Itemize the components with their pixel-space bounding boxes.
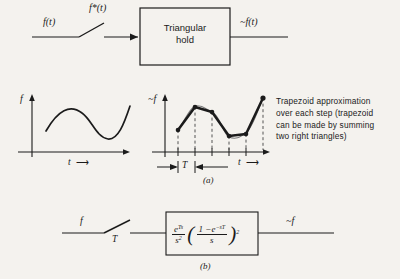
arrow-head-icon xyxy=(130,34,138,41)
top-sampled-label: f*(t) xyxy=(89,3,106,13)
plot-output-axes xyxy=(152,94,270,157)
transfer-function: eTs s2 ( 1 −e−sT s )2 xyxy=(172,224,239,245)
axis-arrow-right-icon xyxy=(263,149,270,155)
plot-output-reference-curve xyxy=(178,98,263,138)
tf-inner-fraction: 1 −e−sT s xyxy=(197,224,227,245)
tf-s-power: 2 xyxy=(179,235,182,241)
bottom-period-label: T xyxy=(112,235,117,245)
plot-output-period-label: T xyxy=(182,161,187,171)
figure-canvas: f(t) f*(t) Triangular hold ~f(t) f t ⟶ ~… xyxy=(0,0,400,279)
top-input-label: f(t) xyxy=(43,17,55,27)
tf-left-fraction: eTs s2 xyxy=(172,224,185,245)
plot-output-xlabel-arrow: ⟶ xyxy=(246,158,259,167)
annotation-line-4: two right triangles) xyxy=(276,131,400,143)
caption-b: (b) xyxy=(200,262,211,271)
top-output-label: ~f(t) xyxy=(240,17,258,27)
plot-input-ylabel: f xyxy=(20,94,23,104)
axis-arrow-right-icon xyxy=(123,149,130,155)
plot-output-ylabel: ~f xyxy=(148,94,156,104)
tf-left-numerator: eTs xyxy=(172,224,185,234)
caption-a: (a) xyxy=(203,176,214,185)
dimension-arrows-icon xyxy=(157,161,228,173)
tf-inner-denominator: s xyxy=(197,234,227,245)
annotation-line-3: can be made by summing xyxy=(276,120,400,132)
plot-input-curve xyxy=(46,106,130,139)
annotation-text: Trapezoid approximation over each step (… xyxy=(276,96,400,143)
tf-inner-exponent: −sT xyxy=(215,224,225,230)
tf-left-denominator: s2 xyxy=(172,234,185,245)
bottom-input-label: f xyxy=(80,216,83,226)
axis-arrow-up-icon xyxy=(162,94,168,101)
plot-input-xlabel-arrow: ⟶ xyxy=(76,158,89,167)
plot-output-xlabel: t xyxy=(238,158,241,168)
axis-arrow-up-icon xyxy=(29,94,35,101)
tf-one: 1 xyxy=(199,224,204,234)
plot-output-piecewise-curve xyxy=(178,98,263,136)
block-label-line1: Triangular xyxy=(140,22,230,34)
tf-inner-numerator: 1 −e−sT xyxy=(197,224,227,234)
annotation-line-2: over each step (trapezoid xyxy=(276,108,400,120)
annotation-line-1: Trapezoid approximation xyxy=(276,96,400,108)
plot-input-axes xyxy=(18,94,130,157)
tf-e-exponent: Ts xyxy=(178,224,183,230)
bottom-output-label: ~f xyxy=(286,216,294,226)
tf-paren-open: ( xyxy=(187,225,194,244)
plot-input-xlabel: t xyxy=(68,158,71,168)
block-label-line2: hold xyxy=(140,34,230,46)
tf-outer-power: 2 xyxy=(236,229,239,235)
